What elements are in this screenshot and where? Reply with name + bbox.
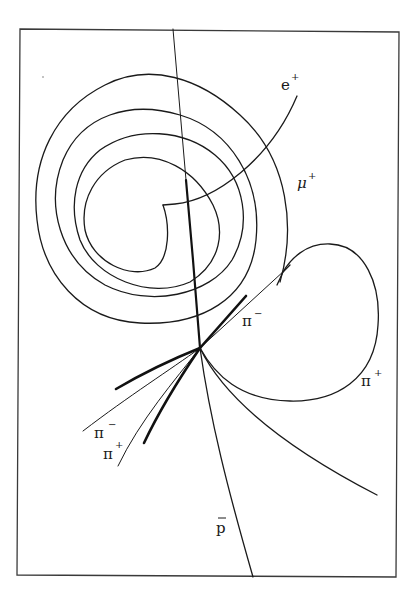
antiproton-track — [200, 348, 253, 577]
label-antiproton: p — [216, 518, 226, 537]
svg-text:p: p — [216, 519, 226, 537]
label-pi-minus-upper: π − — [242, 308, 262, 330]
speck — [42, 76, 44, 78]
svg-text:π: π — [242, 312, 252, 330]
incoming-beam-thick-segment — [186, 180, 200, 348]
svg-text:π: π — [361, 372, 371, 390]
incoming-beam-track — [173, 29, 186, 180]
svg-text:+: + — [291, 71, 299, 82]
chamber-frame — [17, 29, 399, 577]
svg-text:π: π — [94, 424, 104, 442]
svg-text:−: − — [254, 308, 262, 319]
label-pi-minus-lower: π − — [94, 419, 116, 442]
bubble-chamber-diagram: e + μ + π − π + π − π + p — [0, 0, 412, 603]
svg-text:+: + — [308, 170, 316, 181]
heavy-stub-lower — [144, 348, 200, 443]
svg-text:μ: μ — [297, 174, 307, 192]
pi-minus-lower-track — [83, 348, 200, 431]
label-pi-plus-right: π + — [361, 367, 382, 390]
right-lower-curve-track — [200, 348, 377, 495]
svg-text:+: + — [374, 367, 382, 378]
label-mu-plus: μ + — [297, 170, 316, 192]
label-e-plus: e + — [281, 71, 299, 94]
svg-text:π: π — [103, 445, 113, 463]
svg-text:+: + — [115, 439, 123, 450]
svg-text:−: − — [108, 419, 116, 430]
pi-minus-upper-thick-segment — [200, 296, 246, 348]
mu-plus-spiral-track — [36, 74, 288, 323]
label-pi-plus-lower: π + — [103, 439, 123, 463]
svg-text:e: e — [281, 76, 290, 94]
